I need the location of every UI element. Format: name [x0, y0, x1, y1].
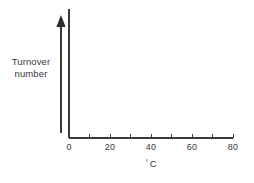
chart-figure: 020406080 Turnover number °C	[0, 0, 254, 183]
x-axis-tick-label: 0	[66, 142, 71, 152]
x-axis-tick-label: 60	[187, 142, 197, 152]
x-axis-title: °C	[69, 158, 233, 169]
x-axis-tick-label: 40	[146, 142, 156, 152]
y-axis-title: Turnover number	[4, 56, 58, 80]
chart-plot-area	[0, 0, 254, 183]
y-axis-title-line-1: Turnover	[4, 56, 58, 68]
x-axis-tick-marks	[69, 134, 233, 138]
x-axis-tick-label: 20	[105, 142, 115, 152]
x-axis-tick-label: 80	[228, 142, 238, 152]
y-axis-title-line-2: number	[4, 68, 58, 80]
degree-symbol-icon: °	[145, 159, 148, 166]
x-axis-unit-label: C	[150, 158, 157, 169]
y-direction-arrow-head	[56, 15, 65, 27]
